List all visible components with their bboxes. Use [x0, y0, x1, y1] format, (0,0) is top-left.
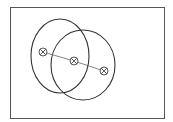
markers-group — [39, 48, 108, 75]
diagram-frame — [11, 8, 165, 119]
crossed-circle-icon — [70, 57, 78, 65]
connector-line — [47, 53, 70, 60]
crossed-circle-icon — [100, 67, 108, 75]
ellipse-right — [51, 30, 115, 100]
venn-diagram — [0, 0, 173, 122]
crossed-circle-icon — [39, 48, 47, 56]
